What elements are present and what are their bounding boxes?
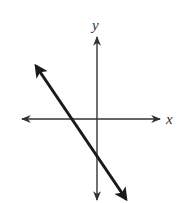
graph-line [36, 66, 126, 199]
coordinate-graph: y x [0, 0, 192, 203]
y-axis-label: y [90, 17, 99, 33]
x-axis-label: x [165, 111, 173, 127]
